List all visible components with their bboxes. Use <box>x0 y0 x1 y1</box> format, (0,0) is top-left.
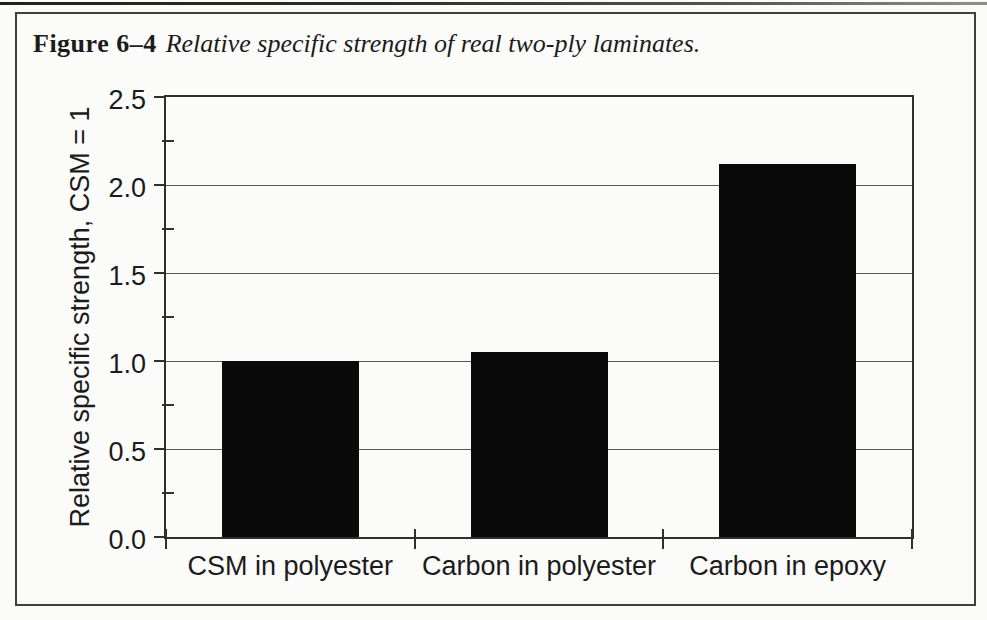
y-tick-label: 2.0 <box>86 174 146 202</box>
x-tick <box>414 529 416 549</box>
y-minor-tick <box>162 492 174 494</box>
y-tick-label: 2.5 <box>86 86 146 114</box>
figure-page: Figure 6–4Relative specific strength of … <box>0 0 987 620</box>
x-category-label: Carbon in epoxy <box>663 551 912 581</box>
figure-caption: Figure 6–4Relative specific strength of … <box>33 27 700 61</box>
bar <box>222 361 359 537</box>
y-minor-tick <box>162 228 174 230</box>
y-major-tick <box>154 184 166 186</box>
y-major-tick <box>154 96 166 98</box>
y-minor-tick <box>162 316 174 318</box>
y-major-tick <box>154 448 166 450</box>
y-tick-label: 0.0 <box>86 526 146 554</box>
bar <box>471 352 608 537</box>
x-category-label: Carbon in polyester <box>415 551 664 581</box>
x-tick <box>662 529 664 549</box>
figure-caption-text: Relative specific strength of real two-p… <box>166 29 701 58</box>
y-tick-label: 1.5 <box>86 262 146 290</box>
x-tick <box>165 529 167 549</box>
y-tick-label: 1.0 <box>86 350 146 378</box>
y-minor-tick <box>162 140 174 142</box>
x-category-label: CSM in polyester <box>166 551 415 581</box>
y-major-tick <box>154 360 166 362</box>
y-major-tick <box>154 272 166 274</box>
figure-caption-label: Figure 6–4 <box>33 29 157 58</box>
scan-artifact-line <box>0 2 987 5</box>
bar <box>719 164 856 537</box>
x-tick <box>911 529 913 549</box>
y-tick-label: 0.5 <box>86 438 146 466</box>
y-minor-tick <box>162 404 174 406</box>
